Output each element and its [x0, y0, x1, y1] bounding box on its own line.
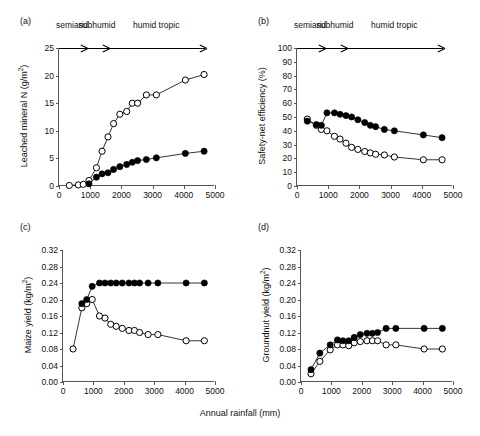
data-point-filled-circle — [334, 337, 340, 343]
x-tick-label: 5000 — [444, 386, 463, 396]
data-point-open-circle — [383, 342, 389, 348]
y-tick-label: 0.04 — [279, 361, 296, 371]
y-axis-title: Groundnut yield (kg/m2) — [261, 249, 271, 381]
y-tick-label: 0.00 — [279, 377, 296, 387]
y-tick-label: 0.24 — [279, 278, 296, 288]
y-tick-label: 0.32 — [279, 245, 296, 255]
data-point-open-circle — [317, 358, 323, 364]
data-point-filled-circle — [421, 325, 427, 331]
panel-letter: (d) — [258, 222, 269, 232]
x-tick-label: 0 — [299, 386, 304, 396]
data-point-filled-circle — [375, 329, 381, 335]
x-tick-label: 3000 — [383, 386, 402, 396]
data-point-filled-circle — [308, 367, 314, 373]
y-tick-label: 0.20 — [279, 295, 296, 305]
data-point-filled-circle — [393, 325, 399, 331]
data-point-open-circle — [393, 342, 399, 348]
data-point-open-circle — [357, 338, 363, 344]
data-point-open-circle — [375, 338, 381, 344]
y-tick-label: 0.28 — [279, 262, 296, 272]
data-point-filled-circle — [346, 338, 352, 344]
x-tick-label: 2000 — [352, 386, 371, 396]
plot-area: 0.000.040.080.120.160.200.240.280.320100… — [300, 250, 452, 382]
data-point-filled-circle — [383, 325, 389, 331]
y-tick-label: 0.12 — [279, 328, 296, 338]
x-tick-label: 4000 — [413, 386, 432, 396]
data-point-open-circle — [439, 346, 445, 352]
data-point-filled-circle — [317, 350, 323, 356]
data-point-filled-circle — [439, 325, 445, 331]
data-point-filled-circle — [351, 334, 357, 340]
figure-root: (a)semiaridsubhumidhumid tropic051015202… — [0, 0, 480, 436]
data-point-open-circle — [421, 346, 427, 352]
x-tick-label: 1000 — [322, 386, 341, 396]
data-point-filled-circle — [327, 342, 333, 348]
series-layer — [301, 250, 453, 382]
data-point-filled-circle — [357, 331, 363, 337]
x-axis-title: Annual rainfall (mm) — [0, 408, 480, 418]
panel-d: (d)0.000.040.080.120.160.200.240.280.320… — [0, 0, 480, 436]
y-tick-label: 0.16 — [279, 311, 296, 321]
data-point-filled-circle — [340, 338, 346, 344]
y-tick-label: 0.08 — [279, 344, 296, 354]
x-tick — [453, 381, 454, 385]
